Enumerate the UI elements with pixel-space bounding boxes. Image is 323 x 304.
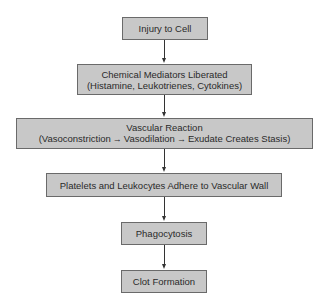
node-chemical-mediators: Chemical Mediators Liberated (Histamine,… xyxy=(77,64,252,95)
node-label: Phagocytosis xyxy=(136,228,193,239)
node-label: Platelets and Leukocytes Adhere to Vascu… xyxy=(60,180,269,191)
node-label: Clot Formation xyxy=(133,276,195,287)
arrow-down-icon xyxy=(162,167,166,172)
arrow-down-icon xyxy=(162,216,166,221)
node-platelets-leukocytes: Platelets and Leukocytes Adhere to Vascu… xyxy=(46,173,282,197)
node-sequence: (Vasoconstriction→Vasodilation→Exudate C… xyxy=(39,133,291,145)
arrow-right-icon: → xyxy=(177,134,186,145)
node-vascular-reaction: Vascular Reaction (Vasoconstriction→Vaso… xyxy=(16,118,313,149)
arrow-down-icon xyxy=(162,264,166,269)
node-label: Chemical Mediators Liberated xyxy=(101,69,227,80)
arrow-down-icon xyxy=(162,112,166,117)
node-sublabel: (Histamine, Leukotrienes, Cytokines) xyxy=(87,80,242,91)
node-label: Vascular Reaction xyxy=(126,122,202,133)
connector-line xyxy=(164,40,165,59)
node-label: Injury to Cell xyxy=(139,23,192,34)
connector-line xyxy=(164,245,165,264)
sequence-step: Vasodilation xyxy=(124,133,175,144)
connector-line xyxy=(164,197,165,217)
connector-line xyxy=(164,95,165,113)
node-phagocytosis: Phagocytosis xyxy=(121,222,207,245)
sequence-step: Vasoconstriction xyxy=(42,133,111,144)
sequence-step: Exudate Creates Stasis xyxy=(188,133,287,144)
arrow-right-icon: → xyxy=(113,134,122,145)
connector-line xyxy=(164,149,165,168)
arrow-down-icon xyxy=(162,58,166,63)
node-injury-to-cell: Injury to Cell xyxy=(122,17,208,40)
node-clot-formation: Clot Formation xyxy=(121,270,207,293)
